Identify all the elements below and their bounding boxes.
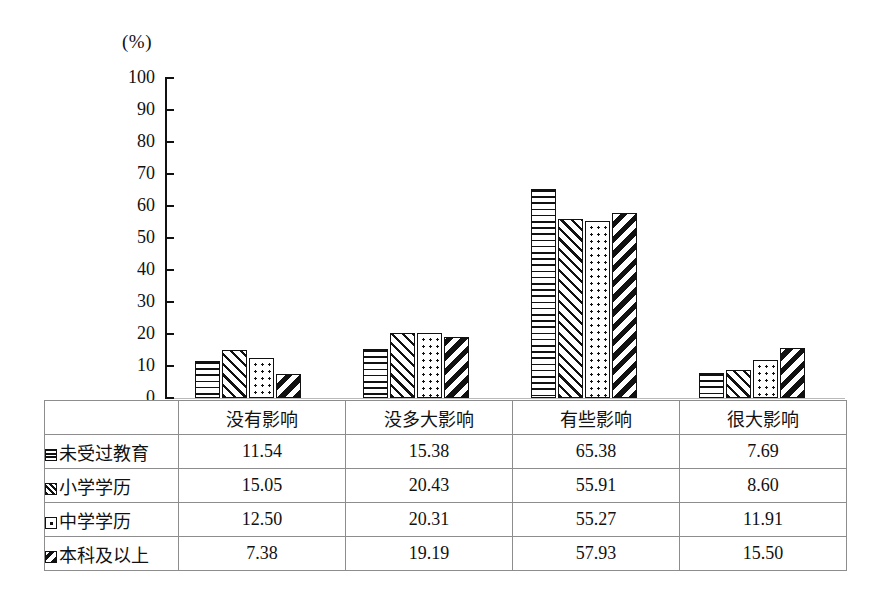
bar xyxy=(753,360,778,398)
bar xyxy=(780,348,805,398)
legend-swatch-icon xyxy=(45,449,57,461)
bar xyxy=(276,374,301,398)
data-table-wrapper: 没有影响没多大影响有些影响很大影响未受过教育11.5415.3865.387.6… xyxy=(44,400,846,571)
data-cell: 55.27 xyxy=(513,503,680,537)
legend-cell: 小学学历 xyxy=(45,469,179,503)
bar xyxy=(558,219,583,398)
bar xyxy=(726,370,751,398)
data-cell: 65.38 xyxy=(513,435,680,469)
bar-group xyxy=(195,0,301,400)
table-header-row: 没有影响没多大影响有些影响很大影响 xyxy=(45,401,847,435)
data-cell: 15.38 xyxy=(346,435,513,469)
legend-swatch-icon xyxy=(45,483,57,495)
legend-label: 未受过教育 xyxy=(59,444,149,464)
bar xyxy=(222,350,247,398)
data-cell: 11.91 xyxy=(680,503,847,537)
legend-label: 中学学历 xyxy=(59,512,131,532)
bar-group xyxy=(699,0,805,400)
data-cell: 7.38 xyxy=(179,537,346,571)
bar xyxy=(699,373,724,398)
legend-swatch-icon xyxy=(45,551,57,563)
data-cell: 8.60 xyxy=(680,469,847,503)
data-cell: 20.31 xyxy=(346,503,513,537)
data-cell: 15.05 xyxy=(179,469,346,503)
data-cell: 7.69 xyxy=(680,435,847,469)
bar-group xyxy=(531,0,637,400)
data-cell: 19.19 xyxy=(346,537,513,571)
legend-label: 小学学历 xyxy=(59,478,131,498)
table-row: 未受过教育11.5415.3865.387.69 xyxy=(45,435,847,469)
bar xyxy=(612,213,637,398)
data-cell: 15.50 xyxy=(680,537,847,571)
bar xyxy=(249,358,274,398)
legend-swatch-icon xyxy=(45,517,57,529)
bar-group xyxy=(363,0,469,400)
bar xyxy=(363,349,388,398)
bar xyxy=(390,333,415,398)
category-header-cell: 很大影响 xyxy=(680,401,847,435)
legend-cell: 未受过教育 xyxy=(45,435,179,469)
chart-figure: (%) 1009080706050403020100 没有影响没多大影响有些影响… xyxy=(0,0,884,596)
bar xyxy=(417,333,442,398)
table-row: 本科及以上7.3819.1957.9315.50 xyxy=(45,537,847,571)
data-cell: 20.43 xyxy=(346,469,513,503)
bar xyxy=(585,221,610,398)
category-header-cell: 没有影响 xyxy=(179,401,346,435)
data-cell: 55.91 xyxy=(513,469,680,503)
table-row: 小学学历15.0520.4355.918.60 xyxy=(45,469,847,503)
legend-label: 本科及以上 xyxy=(59,546,149,566)
bar xyxy=(444,337,469,398)
data-table: 没有影响没多大影响有些影响很大影响未受过教育11.5415.3865.387.6… xyxy=(44,400,847,571)
category-header-cell: 有些影响 xyxy=(513,401,680,435)
data-cell: 57.93 xyxy=(513,537,680,571)
table-corner-cell xyxy=(45,401,179,435)
bar-series-container xyxy=(0,0,884,400)
plot-area: (%) 1009080706050403020100 xyxy=(0,0,884,400)
data-cell: 12.50 xyxy=(179,503,346,537)
table-row: 中学学历12.5020.3155.2711.91 xyxy=(45,503,847,537)
legend-cell: 本科及以上 xyxy=(45,537,179,571)
category-header-cell: 没多大影响 xyxy=(346,401,513,435)
legend-cell: 中学学历 xyxy=(45,503,179,537)
bar xyxy=(531,189,556,398)
bar xyxy=(195,361,220,398)
data-cell: 11.54 xyxy=(179,435,346,469)
